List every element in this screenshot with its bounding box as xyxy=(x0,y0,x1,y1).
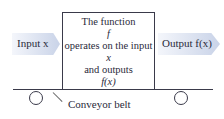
output-label: Output f(x) xyxy=(162,37,212,49)
input-arrow: Input x xyxy=(12,33,60,55)
box-line-2: f xyxy=(63,28,154,40)
output-arrow: Output f(x) xyxy=(158,33,220,55)
conveyor-belt-label: Conveyor belt xyxy=(68,98,131,110)
box-line-1: The function xyxy=(63,16,154,28)
function-box: The function f operates on the input x a… xyxy=(62,12,155,89)
right-wheel-icon xyxy=(174,91,188,105)
box-line-6: f(x) xyxy=(63,76,154,88)
conveyor-belt-line xyxy=(13,89,213,90)
box-line-5: and outputs xyxy=(63,64,154,76)
input-label: Input x xyxy=(17,37,48,49)
box-line-4: x xyxy=(63,52,154,64)
leader-line xyxy=(53,92,63,102)
box-line-3: operates on the input xyxy=(63,40,154,52)
left-wheel-icon xyxy=(29,91,43,105)
